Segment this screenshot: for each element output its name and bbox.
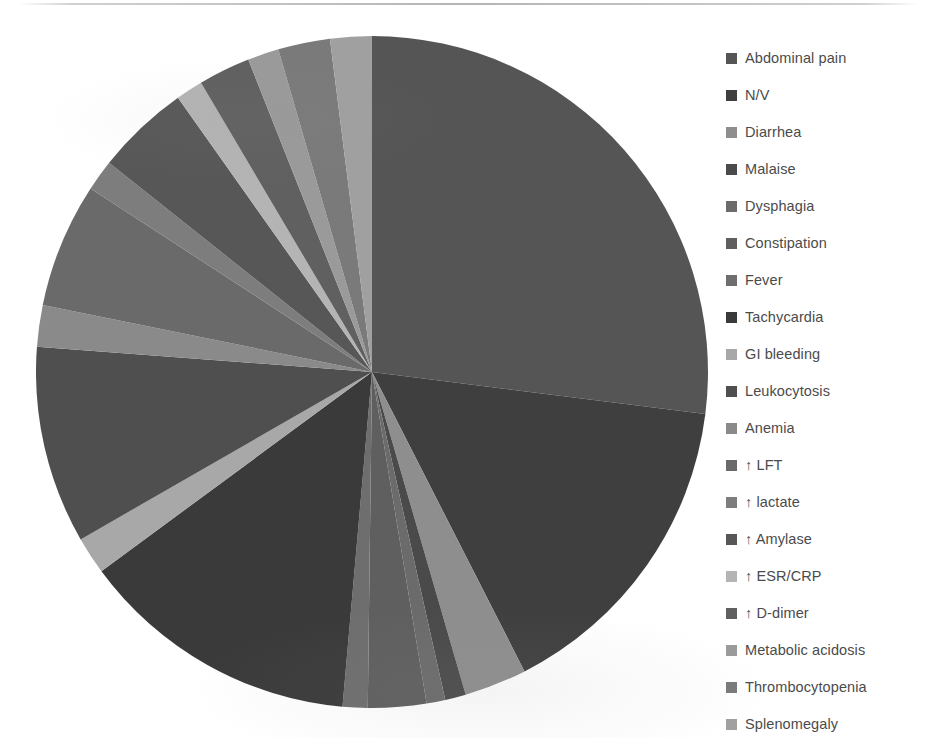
legend-swatch-icon [726,164,737,175]
legend-item-label: Anemia [745,421,795,436]
legend-item: Splenomegaly [726,706,926,738]
legend-item: Malaise [726,151,926,188]
legend-item-label: Metabolic acidosis [745,643,865,658]
legend-item: N/V [726,77,926,114]
legend-item: ↑ D-dimer [726,595,926,632]
legend-item-label: ↑ D-dimer [745,606,809,621]
legend-swatch-icon [726,571,737,582]
legend-item-label: Tachycardia [745,310,823,325]
legend-item: Leukocytosis [726,373,926,410]
legend-item-label: N/V [745,88,769,103]
legend-swatch-icon [726,423,737,434]
legend-swatch-icon [726,608,737,619]
legend-swatch-icon [726,719,737,730]
legend-item: Dysphagia [726,188,926,225]
legend-item-label: Thrombocytopenia [745,680,867,695]
legend-item: ↑ ESR/CRP [726,558,926,595]
legend-item: ↑ Amylase [726,521,926,558]
legend-item: Metabolic acidosis [726,632,926,669]
legend-item-label: Abdominal pain [745,51,846,66]
legend-swatch-icon [726,53,737,64]
chart-area [0,0,712,738]
legend-item: Constipation [726,225,926,262]
legend-swatch-icon [726,201,737,212]
legend-item-label: Diarrhea [745,125,801,140]
legend-swatch-icon [726,349,737,360]
legend-item-label: ↑ LFT [745,458,783,473]
legend-item: Thrombocytopenia [726,669,926,706]
legend-item: Fever [726,262,926,299]
legend-item: Tachycardia [726,299,926,336]
legend-item-label: Constipation [745,236,827,251]
legend-swatch-icon [726,460,737,471]
legend-item-label: ↑ ESR/CRP [745,569,822,584]
legend-swatch-icon [726,682,737,693]
legend-swatch-icon [726,312,737,323]
legend-item: GI bleeding [726,336,926,373]
legend-item-label: Malaise [745,162,796,177]
legend-item: ↑ lactate [726,484,926,521]
legend-swatch-icon [726,90,737,101]
legend-swatch-icon [726,127,737,138]
legend-swatch-icon [726,386,737,397]
legend-item-label: Leukocytosis [745,384,830,399]
pie-chart [36,36,708,708]
pie-slice-group [36,36,708,708]
legend-item-label: ↑ Amylase [745,532,812,547]
legend-item: Abdominal pain [726,40,926,77]
legend-swatch-icon [726,497,737,508]
legend-swatch-icon [726,534,737,545]
chart-legend: Abdominal painN/VDiarrheaMalaiseDysphagi… [726,40,926,738]
legend-item: Anemia [726,410,926,447]
legend-item-label: Dysphagia [745,199,814,214]
legend-swatch-icon [726,645,737,656]
legend-swatch-icon [726,238,737,249]
legend-swatch-icon [726,275,737,286]
legend-item: Diarrhea [726,114,926,151]
legend-item-label: Splenomegaly [745,717,838,732]
legend-item: ↑ LFT [726,447,926,484]
pie-slice [372,36,708,414]
legend-item-label: Fever [745,273,783,288]
legend-item-label: GI bleeding [745,347,820,362]
legend-item-label: ↑ lactate [745,495,800,510]
